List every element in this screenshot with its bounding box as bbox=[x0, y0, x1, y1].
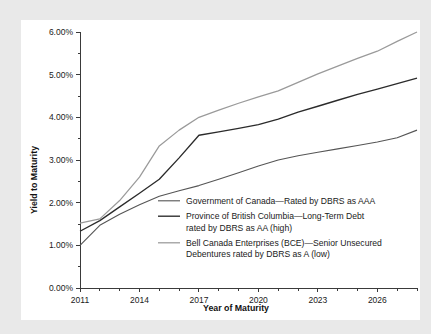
x-axis-tick-label: 2011 bbox=[71, 295, 90, 305]
legend-label-1-line-0: Province of British Columbia—Long-Term D… bbox=[186, 211, 365, 221]
legend-label-2-line-1: Debentures rated by DBRS as A (low) bbox=[186, 249, 330, 259]
y-axis-tick-label: 2.00% bbox=[49, 198, 74, 208]
y-axis-tick-label: 0.00% bbox=[49, 283, 74, 293]
x-axis-title: Year of Maturity bbox=[203, 303, 269, 313]
chart-legend: Government of Canada—Rated by DBRS as AA… bbox=[158, 196, 382, 259]
legend-label-1-line-1: rated by DBRS as AA (high) bbox=[186, 223, 292, 233]
y-axis-tick-label: 3.00% bbox=[49, 155, 74, 165]
y-axis-title: Yield to Maturity bbox=[29, 146, 39, 214]
legend-label-0-line-0: Government of Canada—Rated by DBRS as AA… bbox=[186, 196, 375, 206]
yield-curve-chart: 0.00%1.00%2.00%3.00%4.00%5.00%6.00% 2011… bbox=[21, 20, 420, 320]
y-axis-tick-label: 6.00% bbox=[49, 27, 74, 37]
x-axis-tick-label: 2026 bbox=[368, 295, 387, 305]
y-axis-tick-label: 4.00% bbox=[49, 112, 74, 122]
series-line-1 bbox=[80, 78, 417, 231]
page-background: 0.00%1.00%2.00%3.00%4.00%5.00%6.00% 2011… bbox=[0, 0, 431, 334]
x-axis-tick-label: 2014 bbox=[130, 295, 149, 305]
chart-panel: 0.00%1.00%2.00%3.00%4.00%5.00%6.00% 2011… bbox=[21, 20, 420, 320]
y-axis-tick-label: 1.00% bbox=[49, 240, 74, 250]
y-axis-tick-labels: 0.00%1.00%2.00%3.00%4.00%5.00%6.00% bbox=[49, 27, 74, 293]
y-axis-tick-label: 5.00% bbox=[49, 70, 74, 80]
series-line-2 bbox=[80, 32, 417, 223]
x-axis-tick-label: 2023 bbox=[308, 295, 327, 305]
legend-label-2-line-0: Bell Canada Enterprises (BCE)—Senior Uns… bbox=[186, 238, 382, 248]
